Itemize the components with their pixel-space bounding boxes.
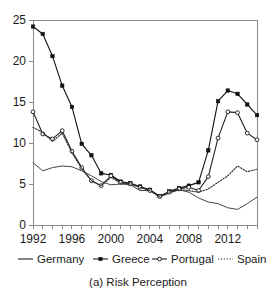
legend-item-portugal[interactable]: Portugal xyxy=(152,253,214,265)
legend-label-greece: Greece xyxy=(112,253,150,265)
y-tick-label: 0 xyxy=(19,218,26,232)
data-point-portugal xyxy=(206,175,210,179)
data-point-greece xyxy=(41,32,44,35)
line-chart: 0510152025 199219962000200420082012 Germ… xyxy=(0,0,277,302)
data-point-greece xyxy=(31,25,34,28)
data-point-greece xyxy=(207,149,210,152)
series-layer xyxy=(31,25,259,210)
series-portugal xyxy=(31,110,259,198)
legend-label-germany: Germany xyxy=(37,253,85,265)
series-line-germany xyxy=(33,163,257,210)
x-tick-label: 1992 xyxy=(20,232,47,246)
legend-label-portugal: Portugal xyxy=(171,253,214,265)
data-point-greece xyxy=(236,92,239,95)
data-point-portugal xyxy=(236,111,240,115)
data-point-greece xyxy=(70,105,73,108)
chart-legend: GermanyGreecePortugalSpain xyxy=(18,253,266,265)
series-germany xyxy=(33,163,257,210)
data-point-greece xyxy=(246,103,249,106)
y-tick-label: 20 xyxy=(13,54,27,68)
series-line-portugal xyxy=(33,112,257,196)
data-point-greece xyxy=(80,142,83,145)
legend-marker-open-circle xyxy=(158,257,162,261)
x-tick-label: 2008 xyxy=(175,232,202,246)
data-point-greece xyxy=(90,154,93,157)
legend-item-spain[interactable]: Spain xyxy=(218,253,266,265)
data-point-portugal xyxy=(216,136,220,140)
legend-marker-filled-square xyxy=(99,257,102,260)
data-point-portugal xyxy=(226,110,230,114)
x-tick-label: 2004 xyxy=(137,232,164,246)
data-point-greece xyxy=(255,113,258,116)
data-point-greece xyxy=(61,84,64,87)
figure-risk-perception: 0510152025 199219962000200420082012 Germ… xyxy=(0,0,277,302)
data-point-greece xyxy=(226,89,229,92)
data-point-greece xyxy=(99,172,102,175)
x-tick-label: 2012 xyxy=(214,232,241,246)
data-point-greece xyxy=(197,181,200,184)
x-tick-label: 1996 xyxy=(59,232,86,246)
figure-caption: (a) Risk Perception xyxy=(89,276,187,288)
y-tick-label: 15 xyxy=(13,95,27,109)
series-line-spain xyxy=(33,127,257,196)
data-point-portugal xyxy=(60,129,64,133)
x-axis: 199219962000200420082012 xyxy=(20,225,257,246)
data-point-portugal xyxy=(245,131,249,135)
data-point-portugal xyxy=(255,138,259,142)
y-tick-label: 10 xyxy=(13,136,27,150)
x-tick-label: 2000 xyxy=(98,232,125,246)
data-point-greece xyxy=(216,99,219,102)
legend-item-germany[interactable]: Germany xyxy=(18,253,85,265)
y-axis: 0510152025 xyxy=(13,13,33,232)
series-spain xyxy=(33,127,257,196)
series-greece xyxy=(31,25,258,198)
data-point-portugal xyxy=(187,185,191,189)
series-line-greece xyxy=(33,27,257,197)
y-tick-label: 5 xyxy=(19,177,26,191)
y-tick-label: 25 xyxy=(13,13,27,27)
legend-label-spain: Spain xyxy=(237,253,266,265)
data-point-portugal xyxy=(31,110,35,114)
data-point-greece xyxy=(51,54,54,57)
legend-item-greece[interactable]: Greece xyxy=(93,253,150,265)
